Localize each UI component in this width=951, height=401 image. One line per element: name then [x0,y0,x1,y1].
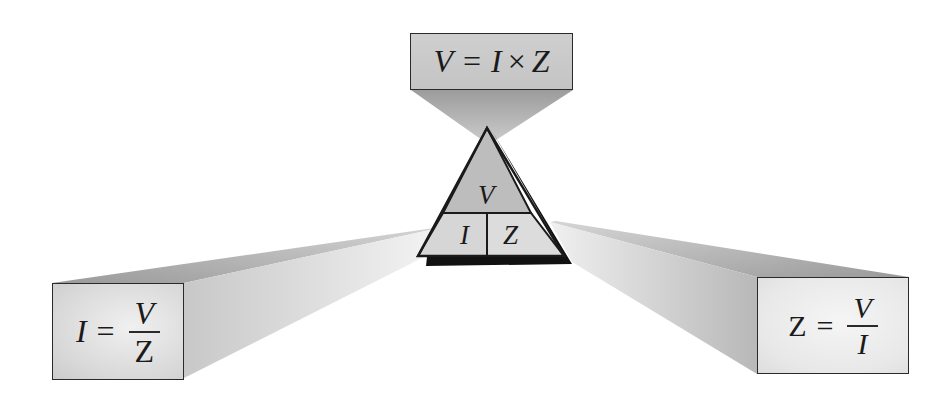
triangle-label-i: I [460,222,469,249]
formula-right-lhs: Z [788,309,806,343]
formula-box-impedance: Z = V I [757,277,909,374]
formula-top-rhs-a: I [491,43,502,80]
formula-box-current: I = V Z [52,283,184,380]
formula-right-fraction: V I [847,293,877,359]
formula-right-numerator: V [847,293,877,327]
formula-top-equals: = [463,43,481,80]
formula-box-voltage: V = I × Z [410,33,573,90]
formula-left-lhs: I [76,313,87,350]
triangle-label-z: Z [503,222,518,249]
formula-left-numerator: V [129,297,161,333]
formula-top-rhs-b: Z [532,43,550,80]
formula-right-equals: = [817,309,834,343]
formula-left-equals: = [97,313,115,350]
formula-right-denominator: I [858,327,868,359]
formula-top-lhs: V [433,43,453,80]
formula-top-times: × [508,43,526,80]
formula-left-denominator: Z [135,333,155,367]
triangle-label-v: V [478,182,495,209]
formula-left-fraction: V Z [129,297,161,367]
top-beam [411,90,573,140]
